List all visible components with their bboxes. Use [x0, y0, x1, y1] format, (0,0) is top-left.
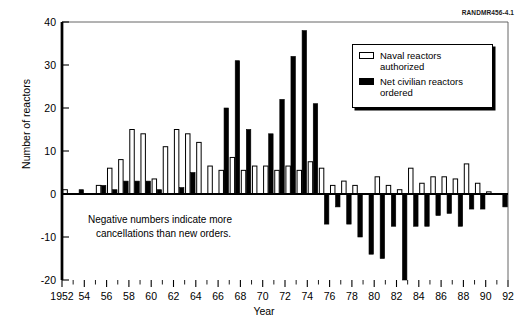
legend-swatch-open-icon: [359, 52, 374, 59]
legend-label-naval-line2: authorized: [380, 61, 424, 72]
legend-label-naval-line1: Naval reactors: [380, 50, 441, 61]
figure-nuclear-reactors-chart: RANDMR456-4.1 Number of reactors Year 40…: [0, 0, 528, 328]
legend-swatch-filled-icon: [359, 78, 374, 85]
legend-item-naval: Naval reactors authorized: [359, 50, 488, 72]
legend-label-civilian-line2: ordered: [380, 87, 413, 98]
annotation-line-1: Negative numbers indicate more: [88, 214, 232, 225]
legend-label-civilian: Net civilian reactors ordered: [380, 76, 463, 98]
annotation-line-2: cancellations than new orders.: [88, 227, 232, 241]
chart-annotation: Negative numbers indicate more cancellat…: [88, 213, 232, 241]
legend-label-civilian-line1: Net civilian reactors: [380, 76, 463, 87]
legend-item-civilian: Net civilian reactors ordered: [359, 76, 488, 98]
chart-legend: Naval reactors authorized Net civilian r…: [352, 44, 493, 108]
legend-label-naval: Naval reactors authorized: [380, 50, 441, 72]
